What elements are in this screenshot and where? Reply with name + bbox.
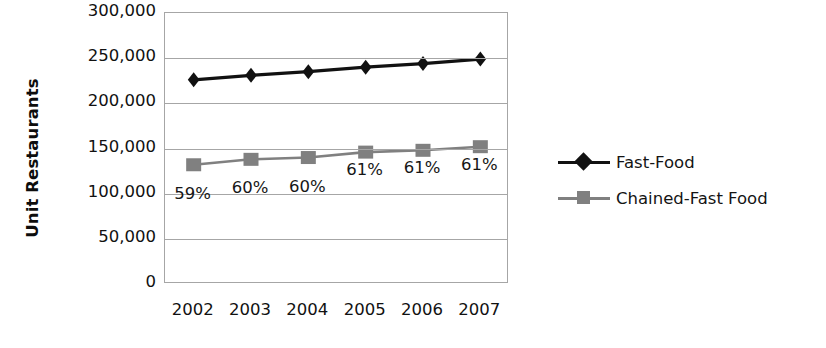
legend-item[interactable]: Fast-Food	[558, 144, 820, 180]
series-2	[186, 140, 488, 171]
data-label: 61%	[404, 158, 441, 177]
data-point-marker	[301, 151, 316, 164]
gridline	[165, 149, 507, 150]
legend-item[interactable]: Chained-Fast Food	[558, 180, 820, 216]
data-label: 61%	[461, 155, 498, 174]
x-axis-tick-label: 2004	[286, 300, 328, 319]
gridline	[165, 103, 507, 104]
data-point-marker	[245, 68, 257, 83]
gridline	[165, 194, 507, 195]
y-axis-tick-label: 250,000	[36, 46, 156, 65]
x-axis-tick-label: 2002	[172, 300, 214, 319]
legend-label: Fast-Food	[616, 153, 695, 172]
line-chart: Unit Restaurants 300,000250,000200,00015…	[0, 0, 826, 348]
data-point-marker	[188, 72, 200, 87]
x-axis-tick-label: 2007	[458, 300, 500, 319]
y-axis-tick-label: 0	[36, 272, 156, 291]
data-point-marker	[302, 64, 314, 79]
y-axis-tick-label: 100,000	[36, 182, 156, 201]
gridline	[165, 239, 507, 240]
data-point-marker	[360, 60, 372, 75]
series-1	[188, 52, 486, 88]
y-axis-tick-label: 150,000	[36, 137, 156, 156]
data-point-marker	[416, 144, 431, 157]
plot-area	[164, 12, 508, 283]
data-point-marker	[473, 140, 488, 153]
data-label: 59%	[174, 184, 211, 203]
legend-label: Chained-Fast Food	[616, 189, 768, 208]
data-label: 60%	[232, 178, 269, 197]
square-marker-icon	[577, 191, 590, 204]
y-axis-tick-labels: 300,000250,000200,000150,000100,00050,00…	[36, 0, 156, 348]
data-point-marker	[186, 158, 201, 171]
gridline	[165, 58, 507, 59]
data-label: 60%	[289, 177, 326, 196]
legend-swatch	[558, 152, 610, 172]
x-axis-tick-label: 2003	[229, 300, 271, 319]
x-axis-tick-label: 2006	[401, 300, 443, 319]
diamond-marker-icon	[574, 152, 592, 170]
y-axis-tick-label: 300,000	[36, 1, 156, 20]
y-axis-tick-label: 50,000	[36, 227, 156, 246]
data-label: 61%	[346, 160, 383, 179]
y-axis-tick-label: 200,000	[36, 91, 156, 110]
data-point-marker	[244, 153, 259, 166]
legend-swatch	[558, 188, 610, 208]
series-line	[194, 59, 481, 80]
chart-legend: Fast-FoodChained-Fast Food	[558, 144, 820, 216]
x-axis-tick-label: 2005	[344, 300, 386, 319]
